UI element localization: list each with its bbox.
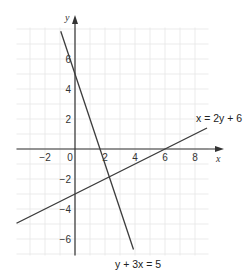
y-tick-label: −4 <box>60 204 72 215</box>
y-axis-label: y <box>64 12 70 23</box>
line1-equation-label: y + 3x = 5 <box>115 258 161 270</box>
series-line-1 <box>61 31 134 249</box>
x-axis-label: x <box>215 153 221 164</box>
x-tick-label: 4 <box>132 152 138 163</box>
x-tick-label: 0 <box>67 152 73 163</box>
x-tick-label: 8 <box>192 152 198 163</box>
y-tick-label: −6 <box>60 234 72 245</box>
y-tick-label: 4 <box>65 84 71 95</box>
x-axis-arrow-icon <box>215 146 224 152</box>
y-tick-label: 2 <box>65 114 71 125</box>
y-tick-label: −2 <box>60 174 72 185</box>
line2-equation-label: x = 2y + 6 <box>196 112 242 124</box>
y-axis-arrow-icon <box>72 15 78 24</box>
x-tick-label: −2 <box>39 152 51 163</box>
x-tick-label: 6 <box>162 152 168 163</box>
graph-plot: −202468642−2−4−6 x y y + 3x = 5 x = 2y +… <box>0 0 249 280</box>
